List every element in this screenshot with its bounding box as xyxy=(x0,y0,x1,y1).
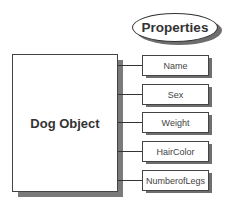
connector-line xyxy=(118,151,142,152)
connector-line xyxy=(118,65,142,66)
property-label: Weight xyxy=(162,118,190,128)
properties-ellipse: Properties xyxy=(132,13,218,42)
dog-object-label: Dog Object xyxy=(30,116,99,131)
property-box-sex: Sex xyxy=(142,84,209,105)
connector-line xyxy=(118,180,142,181)
connector-line xyxy=(118,94,142,95)
property-label: Name xyxy=(163,61,187,71)
property-box-numberoflegs: NumberofLegs xyxy=(142,170,209,191)
property-box-weight: Weight xyxy=(142,112,209,133)
property-label: Sex xyxy=(168,90,184,100)
property-label: NumberofLegs xyxy=(146,176,205,186)
dog-object-box: Dog Object xyxy=(12,54,118,192)
property-box-haircolor: HairColor xyxy=(142,141,209,162)
connector-line xyxy=(118,122,142,123)
property-label: HairColor xyxy=(156,147,194,157)
property-box-name: Name xyxy=(142,55,209,76)
properties-label: Properties xyxy=(142,20,209,35)
